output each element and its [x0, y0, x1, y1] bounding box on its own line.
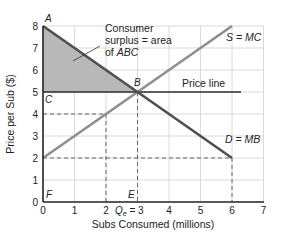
- y-tick-4: 4: [32, 109, 38, 120]
- x-tick-0: 0: [40, 205, 46, 216]
- x-tick-4: 4: [166, 205, 172, 216]
- y-tick-5: 5: [32, 87, 38, 98]
- y-tick-labels: 0 1 2 3 4 5 6 7 8: [32, 21, 38, 208]
- x-tick-5: 5: [198, 205, 204, 216]
- point-label-a: A: [44, 13, 52, 24]
- supply-label: S = MC: [226, 31, 262, 43]
- y-axis-title: Price per Sub ($): [4, 74, 16, 153]
- y-tick-3: 3: [32, 131, 38, 142]
- x-tick-labels: 0 1 2 4 5 6 7: [40, 205, 267, 216]
- point-label-c: C: [45, 94, 53, 105]
- y-tick-8: 8: [32, 21, 38, 32]
- y-tick-0: 0: [32, 197, 38, 208]
- consumer-surplus-annotation: Consumer surplus = area of ABC: [105, 22, 172, 58]
- annotation-line-3: of ABC: [105, 46, 139, 58]
- x-tick-2: 2: [103, 205, 109, 216]
- x-tick-qe: Qe = 3: [115, 205, 144, 217]
- demand-label: D = MB: [225, 133, 260, 145]
- y-tick-6: 6: [32, 65, 38, 76]
- x-axis-title: Subs Consumed (millions): [92, 218, 215, 230]
- annotation-line-2: surplus = area: [105, 34, 172, 46]
- price-line-label: Price line: [182, 77, 225, 89]
- consumer-surplus-chart: 0 1 2 3 4 5 6 7 8 0 1 2 4 5 6 7 Qe = 3 S…: [0, 0, 281, 237]
- y-tick-7: 7: [32, 43, 38, 54]
- point-label-e: E: [128, 189, 135, 200]
- annotation-line-1: Consumer: [105, 22, 154, 34]
- y-tick-2: 2: [32, 153, 38, 164]
- x-tick-7: 7: [261, 205, 267, 216]
- x-tick-1: 1: [72, 205, 78, 216]
- point-label-b: B: [134, 77, 141, 88]
- point-label-f: F: [46, 189, 53, 200]
- x-tick-6: 6: [229, 205, 235, 216]
- y-tick-1: 1: [32, 175, 38, 186]
